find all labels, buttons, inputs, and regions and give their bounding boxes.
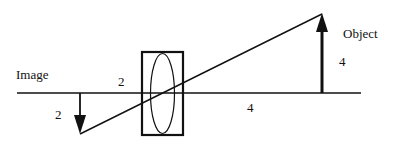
image-distance-label: 2 bbox=[118, 74, 125, 89]
lens-diagram: Image 2 2 4 4 Object bbox=[0, 0, 397, 144]
object-label: Object bbox=[343, 26, 378, 41]
image-label: Image bbox=[16, 67, 49, 82]
principal-ray bbox=[80, 14, 322, 134]
object-distance-label: 4 bbox=[247, 100, 254, 115]
image-height-label: 2 bbox=[55, 107, 62, 122]
object-height-label: 4 bbox=[339, 54, 346, 69]
